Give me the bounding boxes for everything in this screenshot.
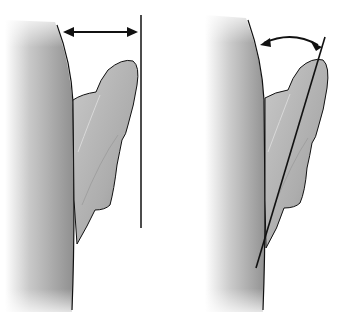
left-panel-distance: [0, 10, 141, 320]
ear-left: [73, 60, 138, 244]
diagram-canvas: [0, 0, 346, 327]
ear-projection-diagram: [0, 0, 346, 327]
right-panel-angle: [190, 5, 328, 320]
head-side-right: [190, 5, 275, 320]
head-side-left: [0, 10, 80, 320]
